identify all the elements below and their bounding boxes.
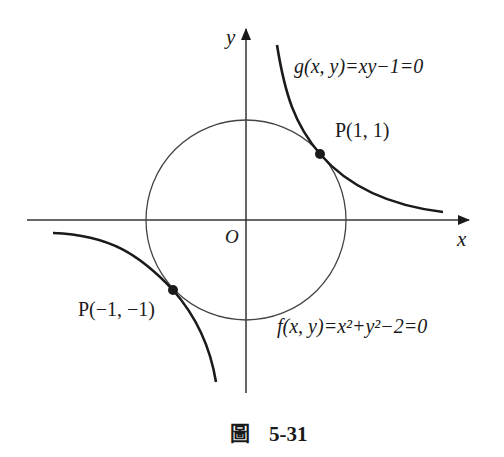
- point-label-p-1-1: P(1, 1): [335, 119, 389, 142]
- point-label-p-neg1-neg1: P(−1, −1): [78, 298, 155, 321]
- circle-label: f(x, y)=x²+y²−2=0: [277, 315, 427, 338]
- point-p-1-1: [315, 149, 325, 159]
- point-p-neg1-neg1: [168, 285, 178, 295]
- figure-diagram: y x O g(x, y)=xy−1=0 f(x, y)=x²+y²−2=0 P…: [0, 0, 504, 457]
- y-axis-label: y: [224, 25, 236, 49]
- x-axis-label: x: [456, 227, 467, 251]
- hyperbola-label: g(x, y)=xy−1=0: [294, 55, 423, 78]
- origin-label: O: [225, 226, 239, 247]
- figure-caption-number: 5-31: [269, 422, 308, 446]
- figure-caption-prefix: 圖: [230, 423, 250, 445]
